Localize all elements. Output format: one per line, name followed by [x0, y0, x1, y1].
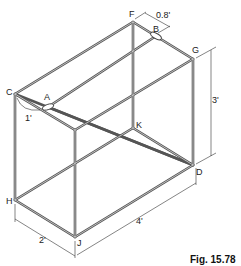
label-F: F [129, 9, 135, 19]
label-K: K [136, 120, 142, 130]
label-A: A [44, 92, 50, 102]
figure-caption: Fig. 15.78 [190, 254, 236, 265]
dim-offset-B: 0.8' [156, 10, 171, 20]
label-D: D [196, 167, 203, 177]
dim-width: 2' [39, 235, 46, 245]
frame-diagram: F B G C A K D H J 0.8' 3' 1' 2' 4' Fig. … [0, 0, 241, 266]
label-C: C [6, 87, 13, 97]
dim-length: 4' [136, 216, 143, 226]
label-B: B [153, 24, 159, 34]
dim-height: 3' [212, 95, 219, 105]
label-J: J [77, 238, 82, 248]
label-H: H [6, 196, 13, 206]
label-G: G [192, 45, 199, 55]
frame-rods [15, 22, 193, 237]
dim-offset-A: 1' [25, 113, 32, 123]
